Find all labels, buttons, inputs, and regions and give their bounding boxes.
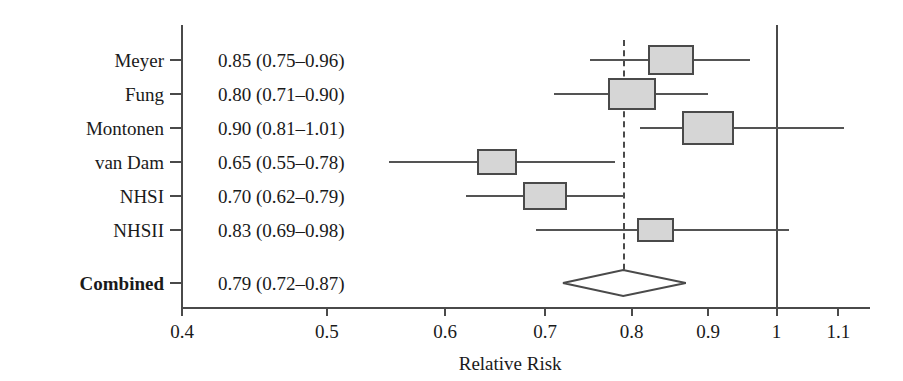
x-tick-6	[776, 307, 778, 316]
study-marker-box-0	[648, 45, 695, 75]
study-marker-box-3	[477, 149, 517, 174]
x-tick-label-3: 0.7	[533, 322, 557, 341]
x-tick-label-1: 0.5	[315, 322, 339, 341]
x-axis-title: Relative Risk	[459, 354, 562, 373]
study-label-1: Fung	[125, 85, 164, 104]
x-tick-0	[181, 307, 183, 316]
study-marker-box-4	[523, 182, 568, 211]
study-label-4: NHSI	[120, 187, 164, 206]
x-tick-4	[631, 307, 633, 316]
x-tick-label-2: 0.6	[433, 322, 457, 341]
study-estimate-text-1: 0.80 (0.71–0.90)	[218, 85, 345, 104]
row-tick-summary	[170, 282, 182, 284]
study-label-5: NHSII	[113, 221, 164, 240]
study-marker-box-5	[637, 218, 674, 242]
study-label-2: Montonen	[86, 119, 164, 138]
row-tick-5	[170, 229, 182, 231]
row-tick-3	[170, 161, 182, 163]
row-tick-1	[170, 93, 182, 95]
study-estimate-text-5: 0.83 (0.69–0.98)	[218, 221, 345, 240]
x-tick-label-6: 1	[772, 322, 782, 341]
summary-estimate-text: 0.79 (0.72–0.87)	[218, 274, 345, 293]
study-estimate-text-2: 0.90 (0.81–1.01)	[218, 119, 345, 138]
reference-line-null	[776, 25, 778, 307]
x-tick-label-4: 0.8	[620, 322, 644, 341]
study-estimate-text-3: 0.65 (0.55–0.78)	[218, 153, 345, 172]
forest-plot: 0.40.50.60.70.80.911.1Relative RiskMeyer…	[0, 0, 903, 381]
x-tick-1	[326, 307, 328, 316]
ci-line-2	[640, 127, 844, 129]
study-estimate-text-4: 0.70 (0.62–0.79)	[218, 187, 345, 206]
summary-label: Combined	[80, 274, 164, 293]
row-tick-0	[170, 59, 182, 61]
x-tick-label-0: 0.4	[170, 322, 194, 341]
study-marker-box-2	[682, 111, 734, 145]
x-tick-7	[837, 307, 839, 316]
row-tick-4	[170, 195, 182, 197]
x-tick-5	[707, 307, 709, 316]
summary-diamond	[559, 266, 690, 300]
y-axis-spine	[181, 25, 183, 307]
row-tick-2	[170, 127, 182, 129]
x-axis-line	[182, 307, 870, 309]
x-tick-2	[444, 307, 446, 316]
study-label-3: van Dam	[95, 153, 164, 172]
study-label-0: Meyer	[114, 51, 164, 70]
study-estimate-text-0: 0.85 (0.75–0.96)	[218, 51, 345, 70]
x-tick-label-7: 1.1	[826, 322, 850, 341]
x-tick-3	[544, 307, 546, 316]
study-marker-box-1	[608, 78, 656, 109]
x-tick-label-5: 0.9	[696, 322, 720, 341]
